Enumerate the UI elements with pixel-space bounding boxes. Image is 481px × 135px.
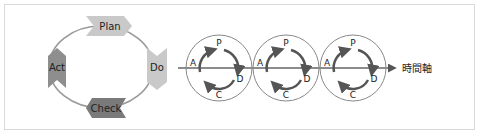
plan-label: Plan [99, 21, 120, 32]
check-label: Check [91, 103, 122, 114]
time-axis-label: 時間軸 [402, 62, 432, 74]
p-label: P [283, 38, 289, 48]
a-label: A [324, 58, 331, 68]
p-label: P [350, 38, 356, 48]
p-label: P [216, 38, 222, 48]
d-label: D [237, 74, 244, 84]
check-chevron: Check [86, 98, 126, 118]
pdca-diagram: Plan Do Check Act 時間軸 P D C A P [0, 0, 481, 135]
do-chevron: Do [147, 48, 167, 90]
c-label: C [283, 90, 289, 100]
d-label: D [371, 74, 378, 84]
act-label: Act [49, 62, 65, 73]
do-label: Do [150, 62, 164, 73]
c-label: C [216, 90, 222, 100]
c-label: C [350, 90, 356, 100]
act-chevron: Act [48, 48, 66, 88]
arrow-d-to-c-icon [341, 80, 368, 89]
arrow-d-to-c-icon [207, 80, 234, 89]
a-label: A [190, 58, 197, 68]
arrow-d-to-c-icon [274, 80, 301, 89]
d-label: D [304, 74, 311, 84]
a-label: A [257, 58, 264, 68]
pdca-cycle: Plan Do Check Act [48, 16, 167, 118]
